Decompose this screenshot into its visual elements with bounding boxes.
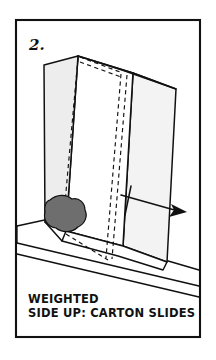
caption-line-2: SIDE UP: CARTON SLIDES (28, 306, 195, 320)
caption-line-1: WEIGHTED (28, 292, 99, 306)
carton (44, 56, 176, 270)
weight-blob (45, 195, 87, 231)
step-number: 2. (28, 36, 45, 54)
arrow-head-icon (169, 204, 187, 217)
figure-panel: 2. WEIGHTED SIDE UP: CARTON SLIDES (0, 0, 216, 360)
illustration-canvas: 2. WEIGHTED SIDE UP: CARTON SLIDES (0, 0, 216, 360)
